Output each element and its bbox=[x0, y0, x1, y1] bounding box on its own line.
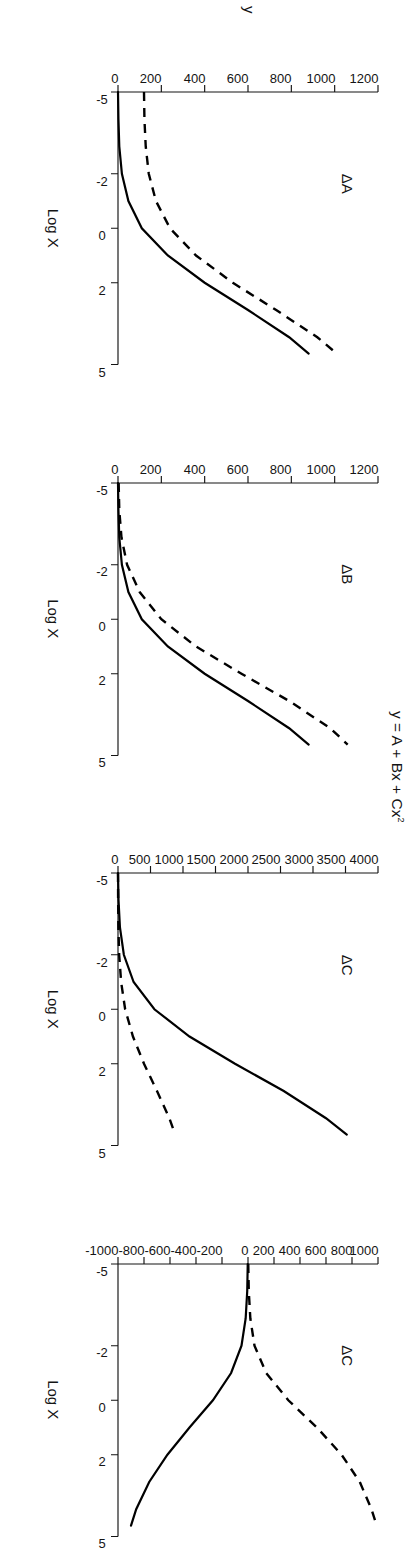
x-axis-label: Log X bbox=[45, 579, 62, 659]
figure-title-superscript: 2 bbox=[396, 817, 406, 822]
panel-delta-c-1: 05001000150020002500300035004000-5-2025L… bbox=[0, 781, 418, 1172]
x-tick-label: 0 bbox=[82, 1400, 122, 1415]
curve-solid bbox=[118, 483, 309, 745]
x-tick-label: -2 bbox=[82, 174, 122, 189]
x-tick-label: 5 bbox=[82, 755, 122, 770]
panel-delta-a: 020040060080010001200-5-2025Log XΔAy bbox=[0, 0, 418, 391]
curve-dashed bbox=[119, 483, 348, 745]
y-tick-label: 4000 bbox=[319, 852, 379, 867]
x-tick-label: 2 bbox=[82, 283, 122, 298]
y-tick-label: 1000 bbox=[319, 1242, 379, 1257]
y-axis bbox=[118, 476, 378, 483]
x-tick-label: -2 bbox=[82, 1345, 122, 1360]
x-tick-label: -2 bbox=[82, 564, 122, 579]
x-tick-label: 5 bbox=[82, 1536, 122, 1551]
x-tick-label: 2 bbox=[82, 1064, 122, 1079]
x-tick-label: 5 bbox=[82, 1146, 122, 1161]
curve-dashed bbox=[248, 1264, 376, 1526]
multi-panel-figure: 020040060080010001200-5-2025Log XΔAy0200… bbox=[0, 0, 418, 1562]
panel-delta-c-2: -1000-800-600-400-20002004006008001000-5… bbox=[0, 1172, 418, 1562]
x-tick-label: 0 bbox=[82, 228, 122, 243]
figure-title: y = A + Bx + Cx2 bbox=[388, 711, 406, 822]
x-tick-label: -5 bbox=[82, 1264, 122, 1279]
x-tick-label: -5 bbox=[82, 483, 122, 498]
x-tick-label: 0 bbox=[82, 1009, 122, 1024]
panel-title: ΔC bbox=[339, 1345, 356, 1366]
panel-title: ΔC bbox=[339, 955, 356, 976]
y-tick-label: 1200 bbox=[319, 461, 379, 476]
panel-plot-area bbox=[0, 781, 418, 1172]
y-axis bbox=[118, 85, 378, 92]
curve-dashed bbox=[144, 92, 337, 354]
y-axis-label: y bbox=[241, 6, 258, 14]
x-tick-label: -5 bbox=[82, 92, 122, 107]
y-tick-label: 1200 bbox=[319, 71, 379, 86]
figure-title-text: y = A + Bx + Cx bbox=[389, 711, 406, 817]
y-axis bbox=[118, 866, 378, 873]
panel-title: ΔA bbox=[339, 174, 356, 194]
x-axis-label: Log X bbox=[45, 188, 62, 268]
x-tick-label: -2 bbox=[82, 955, 122, 970]
x-axis-label: Log X bbox=[45, 969, 62, 1049]
curve-solid bbox=[118, 873, 347, 1135]
panel-title: ΔB bbox=[339, 564, 356, 584]
panel-plot-area bbox=[0, 1172, 418, 1562]
curve-solid bbox=[118, 92, 309, 354]
x-tick-label: 2 bbox=[82, 1454, 122, 1469]
x-tick-label: 2 bbox=[82, 673, 122, 688]
curve-dashed bbox=[118, 873, 175, 1135]
panel-delta-b: 020040060080010001200-5-2025Log XΔB bbox=[0, 391, 418, 782]
x-tick-label: 5 bbox=[82, 365, 122, 380]
panel-plot-area bbox=[0, 391, 418, 782]
x-tick-label: -5 bbox=[82, 873, 122, 888]
panel-plot-area bbox=[0, 0, 418, 391]
curve-solid bbox=[131, 1264, 248, 1526]
x-tick-label: 0 bbox=[82, 619, 122, 634]
figure-page: 020040060080010001200-5-2025Log XΔAy0200… bbox=[0, 0, 418, 1562]
x-axis-label: Log X bbox=[45, 1360, 62, 1440]
